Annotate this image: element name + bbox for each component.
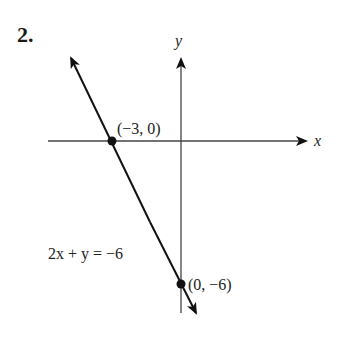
equation-label: 2x + y = −6 xyxy=(48,245,123,263)
point-y-intercept-label: (0, −6) xyxy=(188,276,232,294)
graph: x y (−3, 0) (0, −6) 2x + y = −6 xyxy=(0,0,341,338)
x-axis-label: x xyxy=(313,132,321,149)
point-x-intercept-label: (−3, 0) xyxy=(117,120,161,138)
y-axis-label: y xyxy=(173,32,183,50)
equation-line-lower xyxy=(150,222,196,313)
point-x-intercept xyxy=(108,137,117,146)
point-y-intercept xyxy=(177,280,186,289)
